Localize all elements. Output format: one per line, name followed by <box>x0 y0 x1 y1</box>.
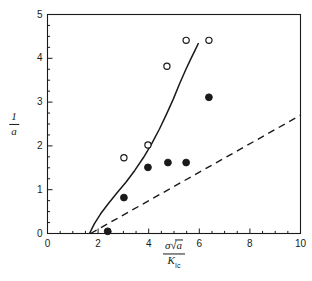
data-markers <box>104 37 212 234</box>
filled-circle-marker <box>145 164 152 171</box>
y-tick-label: 3 <box>37 97 43 107</box>
data-curves <box>90 43 301 234</box>
x-tick-label: 6 <box>197 239 203 249</box>
k-symbol: K <box>168 254 175 266</box>
y-tick-label: 5 <box>37 10 43 20</box>
x-tick-label: 0 <box>45 239 51 249</box>
filled-circle-marker <box>104 228 111 235</box>
y-axis-title-fraction: 1 a <box>9 111 19 137</box>
x-tick-label: 10 <box>295 239 306 249</box>
open-circle-marker <box>183 37 189 43</box>
filled-circle-marker <box>165 159 172 166</box>
filled-circle-marker <box>121 194 128 201</box>
plot-frame <box>48 15 301 234</box>
y-axis-title-numerator: 1 <box>9 111 19 125</box>
open-circle-marker <box>121 155 127 161</box>
x-tick-label: 4 <box>146 239 152 249</box>
y-axis-title-denominator: a <box>9 125 19 138</box>
open-circle-marker <box>206 37 212 43</box>
y-tick-label: 4 <box>37 53 43 63</box>
k-subscript: Ic <box>175 261 180 268</box>
axis-ticks <box>48 15 301 234</box>
solid-curve <box>90 43 199 234</box>
x-axis-title: σ√a KIc <box>163 239 185 268</box>
x-tick-label: 8 <box>247 239 253 249</box>
y-tick-label: 0 <box>37 229 43 239</box>
y-tick-label: 2 <box>37 141 43 151</box>
x-axis-title-radicand: a <box>175 239 183 252</box>
filled-circle-marker <box>206 94 213 101</box>
open-circle-marker <box>164 63 170 69</box>
x-axis-title-fraction: σ√a KIc <box>163 239 185 268</box>
chart-figure: 0246810012345 1 a σ√a KIc <box>0 0 312 281</box>
dashed-line <box>91 115 301 233</box>
x-axis-title-numerator: σ√a <box>163 239 185 254</box>
filled-circle-marker <box>183 159 190 166</box>
y-axis-title: 1 a <box>9 111 19 137</box>
x-tick-label: 2 <box>95 239 101 249</box>
y-tick-label: 1 <box>37 185 43 195</box>
x-axis-title-denominator: KIc <box>163 254 185 269</box>
open-circle-marker <box>145 142 151 148</box>
